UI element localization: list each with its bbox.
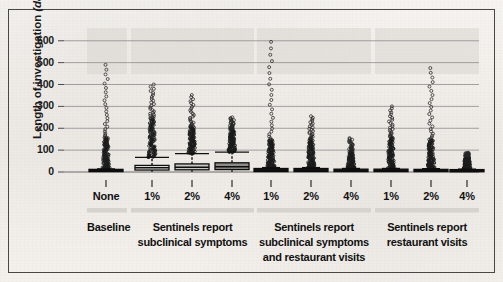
figure-canvas: Length of investigation (days) 010020030… [0,0,503,282]
box-plot[interactable] [334,169,368,173]
x-tick-marks [106,180,467,187]
group-separator-bars [87,208,479,213]
box-plot[interactable] [175,154,209,172]
scan-band-artifact [87,28,479,74]
box-plot[interactable] [215,152,249,172]
box-plot[interactable] [89,169,123,172]
plot-container: Length of investigation (days) 010020030… [9,10,494,272]
box-plot[interactable] [135,157,169,172]
box-plot[interactable] [414,169,448,172]
box-plot[interactable] [374,169,408,173]
box-plot[interactable] [254,168,288,172]
box-plot[interactable] [294,168,328,172]
box-plot[interactable] [450,169,484,172]
boxplot-svg [9,10,494,272]
